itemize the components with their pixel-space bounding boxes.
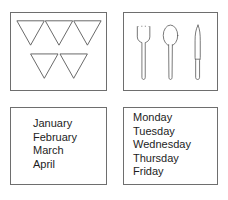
list-item: March (33, 144, 77, 158)
list-item: Thursday (133, 152, 191, 166)
months-panel: January February March April (10, 107, 107, 185)
spoon-icon (163, 25, 177, 79)
triangle-5 (60, 54, 87, 78)
list-item: Tuesday (133, 125, 191, 139)
triangle-2 (45, 21, 72, 45)
fork-icon (137, 26, 150, 79)
triangle-3 (74, 21, 101, 45)
days-panel: Monday Tuesday Wednesday Thursday Friday (123, 107, 218, 185)
triangle-1 (17, 21, 44, 45)
triangles-canvas (11, 13, 106, 90)
list-item: Wednesday (133, 138, 191, 152)
cutlery-panel (123, 12, 218, 91)
list-item: April (33, 158, 77, 172)
months-list: January February March April (33, 117, 77, 171)
knife-icon (195, 25, 200, 79)
list-item: January (33, 117, 77, 131)
list-item: Friday (133, 165, 191, 179)
triangles-panel (10, 12, 107, 91)
days-list: Monday Tuesday Wednesday Thursday Friday (133, 111, 191, 179)
list-item: Monday (133, 111, 191, 125)
list-item: February (33, 131, 77, 145)
cutlery-canvas (124, 13, 217, 90)
triangle-4 (31, 54, 58, 78)
